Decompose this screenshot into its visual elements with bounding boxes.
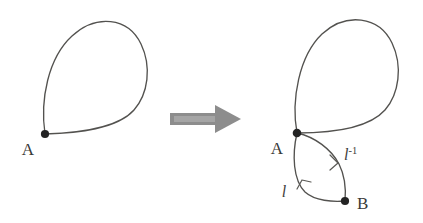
transformation-arrow-shaft-texture (174, 116, 215, 122)
right-panel-edge-label-l-inverse: l-1 (344, 145, 357, 163)
transformation-arrow-head (215, 105, 241, 133)
right-panel-loop-curve (295, 20, 398, 133)
left-panel-vertex-A-dot (41, 130, 49, 138)
right-panel-edge-label-l: l (282, 183, 287, 200)
left-panel-loop-curve (44, 21, 148, 134)
right-panel-label-B: B (357, 194, 368, 213)
topology-diagram-svg: A A B l l (0, 0, 423, 223)
transformation-arrow (170, 105, 241, 133)
edge-label-l-base: l (282, 183, 287, 200)
diagram-canvas: A A B l l (0, 0, 423, 223)
right-panel-vertex-A-dot (293, 129, 302, 138)
left-panel-label-A: A (22, 140, 35, 159)
left-arc-direction-tick (297, 180, 311, 189)
right-panel: A B l l-1 (271, 20, 398, 213)
edge-label-l-inverse-exponent: -1 (348, 145, 357, 156)
right-panel-vertex-B-dot (341, 197, 349, 205)
left-panel: A (22, 21, 147, 159)
right-panel-label-A: A (271, 139, 284, 158)
